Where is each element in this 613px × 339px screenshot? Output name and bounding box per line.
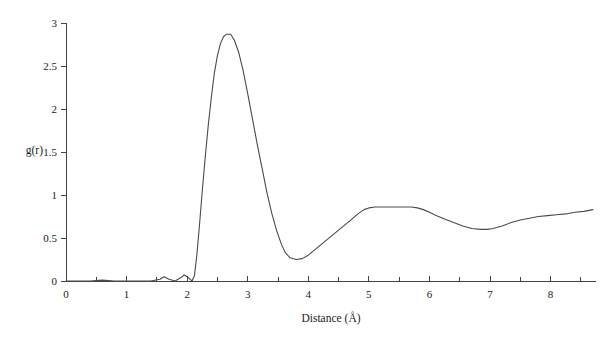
- x-tick-label: 4: [306, 288, 312, 300]
- x-axis-tick-labels: 012345678: [63, 288, 554, 300]
- y-axis-tick-labels: 00.511.522.53: [43, 17, 57, 287]
- x-tick-label: 1: [124, 288, 130, 300]
- x-tick-label: 7: [487, 288, 493, 300]
- x-axis-title: Distance (Å): [301, 311, 360, 325]
- x-tick-label: 6: [427, 288, 433, 300]
- y-tick-label: 3: [52, 17, 58, 29]
- x-tick-label: 2: [184, 288, 190, 300]
- y-axis: 00.511.522.53: [43, 17, 67, 287]
- y-tick-label: 0.5: [43, 232, 57, 244]
- y-axis-title: g(r): [26, 144, 43, 157]
- x-tick-label: 5: [366, 288, 372, 300]
- chart-canvas: 00.511.522.53 012345678 g(r) Distance (Å…: [0, 0, 613, 339]
- x-tick-label: 0: [63, 288, 69, 300]
- y-tick-label: 1: [52, 189, 58, 201]
- y-tick-label: 2: [52, 103, 58, 115]
- x-axis: 012345678: [63, 276, 596, 300]
- y-tick-label: 2.5: [43, 60, 57, 72]
- y-tick-label: 0: [52, 275, 58, 287]
- x-tick-label: 3: [245, 288, 251, 300]
- y-tick-label: 1.5: [43, 146, 57, 158]
- radial-distribution-function-chart: 00.511.522.53 012345678 g(r) Distance (Å…: [0, 0, 613, 339]
- x-tick-label: 8: [548, 288, 554, 300]
- gr-curve: [66, 34, 593, 281]
- plot-series-group: [66, 34, 593, 281]
